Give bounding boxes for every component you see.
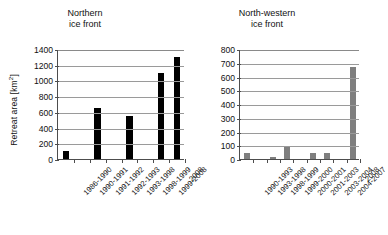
x-axis-tick — [307, 159, 308, 163]
plot-area-northern: 1986-19901990-19911991-19921992-19931993… — [57, 50, 184, 160]
gridline — [58, 144, 184, 145]
y-axis-tick — [237, 160, 241, 161]
x-axis-tick — [333, 159, 334, 163]
y-axis-tick — [55, 97, 59, 98]
y-axis-tick — [237, 64, 241, 65]
gridline — [240, 91, 359, 92]
chart-panel-northern: Northern ice front 1986-19901990-1991199… — [0, 0, 190, 235]
plot-area-north-western: 1990-19931993-19981998-19991999-20002000… — [239, 50, 359, 160]
bar — [158, 73, 165, 159]
y-axis-tick-label: 800 — [39, 92, 53, 102]
y-axis-tick-label: 200 — [39, 139, 53, 149]
gridline — [240, 78, 359, 79]
y-axis-tick-label: 0 — [48, 155, 53, 165]
y-axis-tick-label: 700 — [221, 59, 235, 69]
bar — [350, 67, 356, 159]
y-axis-tick — [237, 146, 241, 147]
y-axis-tick — [55, 113, 59, 114]
x-axis-tick — [122, 159, 123, 163]
y-axis-tick — [237, 105, 241, 106]
y-axis-tick-label: 300 — [221, 114, 235, 124]
x-axis-labels-northern: 1986-19901990-19911991-19921992-19931993… — [58, 159, 184, 229]
gridline — [240, 133, 359, 134]
chart-title-north-western: North-western ice front — [192, 8, 342, 29]
x-axis-tick — [137, 159, 138, 163]
y-axis-tick-label: 0 — [230, 155, 235, 165]
y-axis-tick — [55, 129, 59, 130]
x-axis-tick — [90, 159, 91, 163]
y-axis-tick-label: 100 — [221, 141, 235, 151]
chart-title-northern-line1: Northern — [10, 8, 160, 19]
gridline — [58, 66, 184, 67]
y-axis-tick-label: 800 — [221, 45, 235, 55]
chart-title-northern: Northern ice front — [10, 8, 160, 29]
x-axis-tick — [267, 159, 268, 163]
gridline — [240, 105, 359, 106]
bar — [94, 108, 101, 159]
y-axis-tick — [55, 81, 59, 82]
x-axis-tick — [169, 159, 170, 163]
y-axis-tick-label: 400 — [221, 100, 235, 110]
gridline — [240, 119, 359, 120]
bar — [126, 116, 133, 159]
x-axis-tick — [320, 159, 321, 163]
plot-top-border — [58, 50, 184, 51]
chart-panel-north-western: North-western ice front 1990-19931993-19… — [186, 0, 365, 235]
gridline — [240, 64, 359, 65]
y-axis-tick — [237, 91, 241, 92]
y-axis-tick-label: 1200 — [34, 61, 53, 71]
y-axis-tick — [55, 144, 59, 145]
y-axis-tick — [237, 133, 241, 134]
y-axis-tick-label: 600 — [39, 108, 53, 118]
x-axis-tick — [360, 159, 361, 163]
y-axis-tick-label: 200 — [221, 128, 235, 138]
gridline — [58, 97, 184, 98]
x-axis-tick — [293, 159, 294, 163]
y-axis-tick — [237, 119, 241, 120]
gridline — [58, 113, 184, 114]
y-axis-tick-label: 400 — [39, 124, 53, 134]
y-axis-tick-label: 600 — [221, 73, 235, 83]
chart-title-northern-line2: ice front — [10, 19, 160, 30]
y-axis-tick-label: 1400 — [34, 45, 53, 55]
gridline — [58, 129, 184, 130]
y-axis-tick — [237, 78, 241, 79]
y-axis-tick-label: 500 — [221, 86, 235, 96]
x-axis-tick — [280, 159, 281, 163]
chart-title-north-western-line1: North-western — [192, 8, 342, 19]
plot-top-border — [240, 50, 359, 51]
bar — [284, 147, 290, 159]
y-axis-tick — [55, 66, 59, 67]
gridline — [240, 146, 359, 147]
y-axis-tick — [55, 160, 59, 161]
gridline — [58, 81, 184, 82]
x-axis-labels-north-western: 1990-19931993-19981998-19991999-20002000… — [240, 159, 359, 229]
x-axis-tick — [74, 159, 75, 163]
x-axis-tick — [253, 159, 254, 163]
x-axis-tick — [153, 159, 154, 163]
bar — [63, 151, 70, 159]
y-axis-tick-label: 1000 — [34, 76, 53, 86]
x-axis-tick — [106, 159, 107, 163]
chart-title-north-western-line2: ice front — [192, 19, 342, 30]
x-axis-tick — [347, 159, 348, 163]
